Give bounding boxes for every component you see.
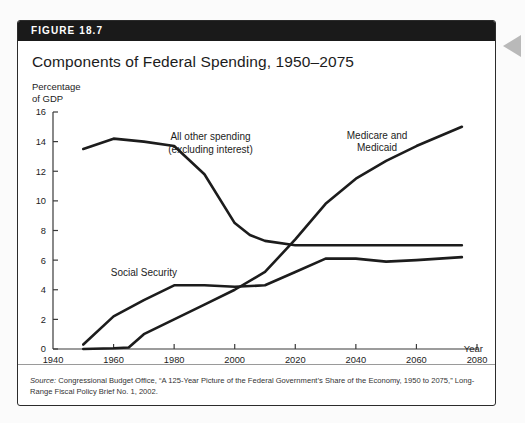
line-chart-plot: 0246810121416194019601980200020202040206… <box>18 21 497 407</box>
y-tick-label: 10 <box>36 196 46 206</box>
series-label: (excluding interest) <box>168 144 252 155</box>
source-prefix: Source: <box>30 376 56 385</box>
series-label: Medicare and <box>347 130 408 141</box>
series-label: Social Security <box>111 267 177 278</box>
series-annotations: All other spending(excluding interest)So… <box>111 130 408 279</box>
page-side-arrow-icon <box>503 35 521 57</box>
y-tick-label: 14 <box>36 137 46 147</box>
series-label: Medicaid <box>357 142 397 153</box>
y-tick-label: 0 <box>41 344 46 354</box>
figure-page: FIGURE 18.7 Components of Federal Spendi… <box>0 0 525 423</box>
series-label: All other spending <box>170 131 250 142</box>
series-line <box>83 127 462 349</box>
series-group <box>83 127 462 349</box>
x-axis-title: Year <box>464 343 483 354</box>
source-text: Congressional Budget Office, “A 125-Year… <box>30 376 474 396</box>
figure-container: FIGURE 18.7 Components of Federal Spendi… <box>17 20 496 406</box>
y-tick-label: 16 <box>36 107 46 117</box>
y-tick-label: 12 <box>36 167 46 177</box>
series-line <box>83 139 462 246</box>
y-tick-label: 8 <box>41 226 46 236</box>
y-tick-label: 4 <box>41 285 46 295</box>
source-divider <box>18 364 495 365</box>
y-tick-label: 6 <box>41 256 46 266</box>
source-note: Source: Congressional Budget Office, “A … <box>30 375 483 397</box>
y-tick-label: 2 <box>41 315 46 325</box>
